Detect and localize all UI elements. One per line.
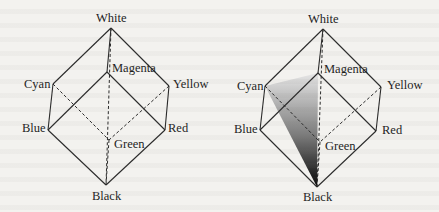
label-blue: Blue — [234, 122, 258, 136]
label-black: Black — [303, 190, 333, 204]
edge-green-black — [106, 140, 109, 185]
color-cube-diagrams: White Magenta Cyan Yellow Blue Red Green… — [0, 0, 439, 212]
label-green: Green — [325, 139, 356, 153]
label-black: Black — [92, 189, 122, 203]
label-cyan: Cyan — [24, 77, 51, 91]
edge-white-yellow — [323, 29, 381, 87]
color-cube-left: White Magenta Cyan Yellow Blue Red Green… — [22, 11, 209, 203]
edge-yellow-green — [320, 87, 381, 142]
shaded-cyan-magenta-black-triangle — [265, 73, 318, 187]
label-red: Red — [168, 121, 189, 135]
label-magenta: Magenta — [324, 62, 368, 76]
label-cyan: Cyan — [237, 79, 264, 93]
edge-white-cyan — [53, 28, 111, 84]
edge-yellow-green — [109, 86, 169, 140]
color-cube-right: White Magenta Cyan Yellow Blue Red Green… — [234, 12, 423, 204]
label-yellow: Yellow — [173, 77, 209, 91]
hidden-edges — [53, 28, 169, 185]
edge-yellow-red — [376, 87, 381, 131]
label-white: White — [308, 12, 339, 26]
edge-cyan-green — [53, 84, 109, 140]
label-magenta: Magenta — [112, 61, 156, 75]
label-blue: Blue — [22, 121, 46, 135]
edge-blue-black — [48, 130, 106, 185]
label-white: White — [96, 11, 127, 25]
edge-white-yellow — [111, 28, 169, 86]
label-yellow: Yellow — [387, 78, 423, 92]
label-green: Green — [114, 137, 145, 151]
color-cube-figure: White Magenta Cyan Yellow Blue Red Green… — [0, 0, 439, 212]
edge-magenta-red — [318, 73, 376, 131]
edge-magenta-red — [107, 72, 165, 130]
label-red: Red — [382, 123, 403, 137]
